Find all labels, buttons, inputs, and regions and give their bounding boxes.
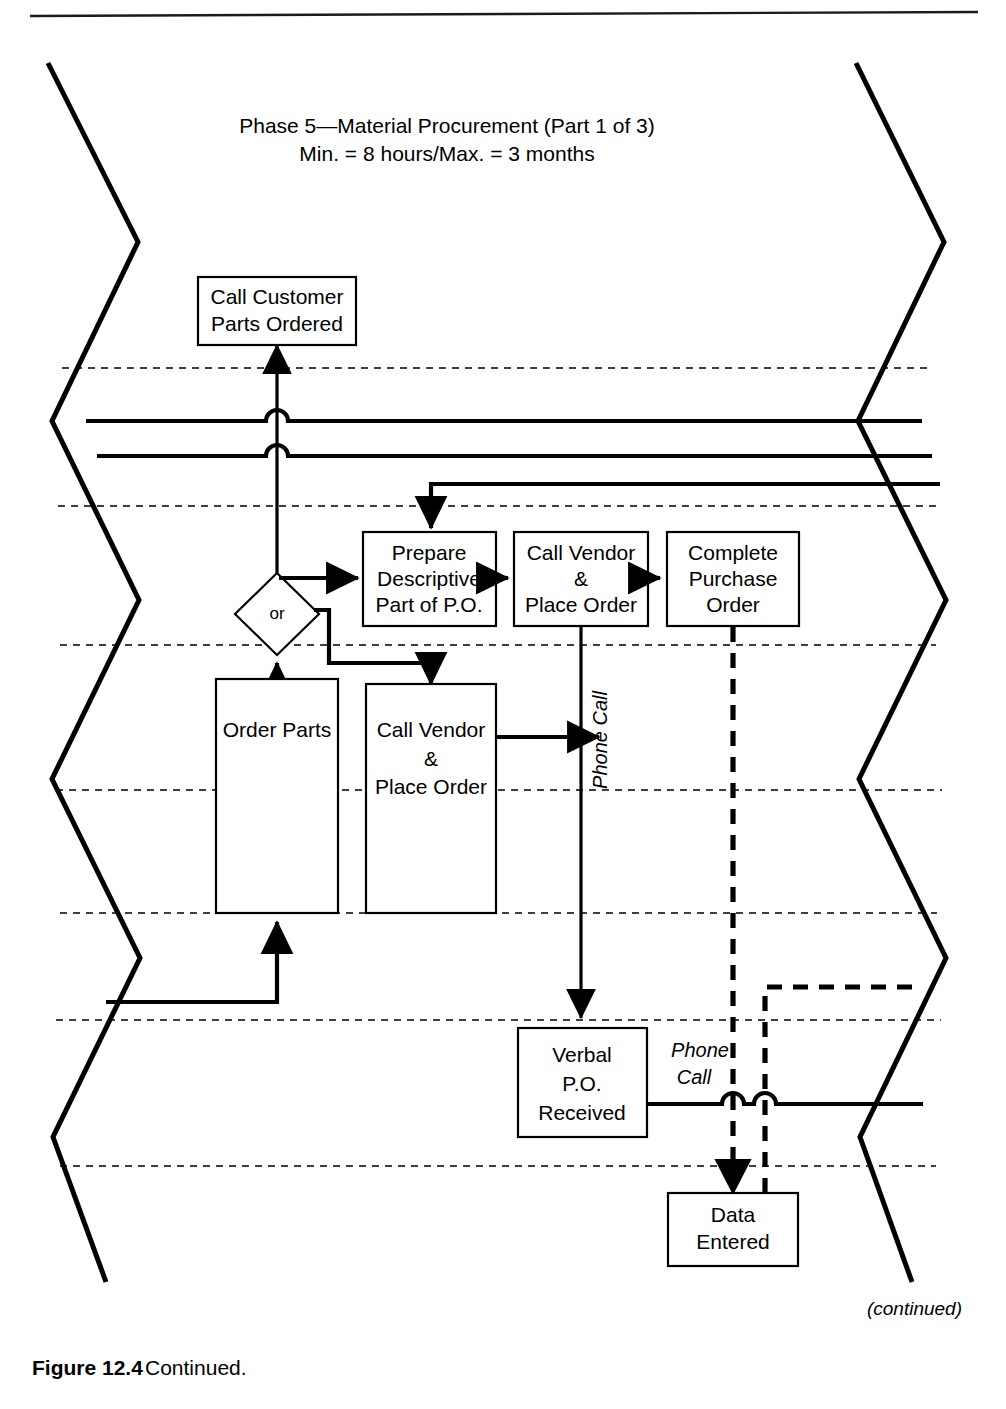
node-prepare-po-line2: Descriptive bbox=[377, 567, 481, 590]
node-order-parts: Order Parts bbox=[216, 679, 338, 913]
node-complete-po-line1: Complete bbox=[688, 541, 778, 564]
node-prepare-po-line3: Part of P.O. bbox=[376, 593, 483, 616]
node-call-vendor-top: Call Vendor & Place Order bbox=[514, 532, 648, 626]
continued-note: (continued) bbox=[867, 1298, 962, 1319]
band-line-1 bbox=[86, 410, 922, 421]
node-prepare-po: Prepare Descriptive Part of P.O. bbox=[363, 532, 496, 626]
node-call-customer: Call Customer Parts Ordered bbox=[198, 277, 356, 345]
node-complete-po-line3: Order bbox=[706, 593, 760, 616]
edge-label-phone-call-h-line1: Phone bbox=[671, 1039, 729, 1061]
edge-label-phone-call-vertical: Phone Call bbox=[589, 691, 611, 789]
node-call-vendor-bottom-line2: & bbox=[424, 747, 438, 770]
figure-title-line1: Phase 5—Material Procurement (Part 1 of … bbox=[239, 114, 655, 137]
node-call-vendor-bottom: Call Vendor & Place Order bbox=[366, 684, 496, 913]
node-call-customer-line2: Parts Ordered bbox=[211, 312, 343, 335]
left-torn-edge bbox=[48, 63, 140, 1282]
figure-caption-label: Figure 12.4 bbox=[32, 1356, 143, 1379]
node-call-vendor-top-line2: & bbox=[574, 567, 588, 590]
figure-caption-text: Continued. bbox=[145, 1356, 247, 1379]
node-complete-po: Complete Purchase Order bbox=[667, 532, 799, 626]
node-call-vendor-bottom-line3: Place Order bbox=[375, 775, 487, 798]
node-call-vendor-bottom-line1: Call Vendor bbox=[377, 718, 486, 741]
node-verbal-po-line2: P.O. bbox=[562, 1072, 601, 1095]
band-line-2 bbox=[97, 445, 932, 456]
figure-title-line2: Min. = 8 hours/Max. = 3 months bbox=[299, 142, 594, 165]
node-data-entered: Data Entered bbox=[668, 1193, 798, 1266]
node-call-customer-line1: Call Customer bbox=[210, 285, 343, 308]
edge-right-edge-dashed-down bbox=[765, 987, 912, 1194]
node-verbal-po-line1: Verbal bbox=[552, 1043, 612, 1066]
node-order-parts-line1: Order Parts bbox=[223, 718, 332, 741]
flowchart-canvas: Call Customer Parts Ordered or Prepare D… bbox=[0, 0, 1006, 1409]
node-or-gate-label: or bbox=[269, 604, 284, 623]
right-torn-edge bbox=[856, 63, 946, 1282]
header-rule bbox=[30, 12, 978, 16]
node-call-vendor-top-line1: Call Vendor bbox=[527, 541, 636, 564]
node-prepare-po-line1: Prepare bbox=[392, 541, 467, 564]
node-verbal-po: Verbal P.O. Received bbox=[518, 1028, 647, 1137]
node-data-entered-line2: Entered bbox=[696, 1230, 770, 1253]
node-complete-po-line2: Purchase bbox=[689, 567, 778, 590]
node-data-entered-line1: Data bbox=[711, 1203, 756, 1226]
node-or-gate: or bbox=[235, 573, 319, 655]
edge-left-edge-to-order-parts bbox=[106, 922, 277, 1002]
figure-page: Call Customer Parts Ordered or Prepare D… bbox=[0, 0, 1006, 1409]
node-verbal-po-line3: Received bbox=[538, 1101, 626, 1124]
edge-label-phone-call-h-line2: Call bbox=[677, 1066, 712, 1088]
node-call-vendor-top-line3: Place Order bbox=[525, 593, 637, 616]
